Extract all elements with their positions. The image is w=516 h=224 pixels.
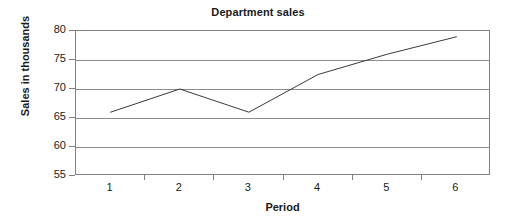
y-axis-tick-label: 55 bbox=[26, 169, 66, 180]
x-axis-tick-label: 4 bbox=[297, 182, 337, 193]
x-axis-tick-mark bbox=[421, 175, 422, 180]
x-axis-title: Period bbox=[75, 201, 490, 213]
x-axis-tick-mark bbox=[213, 175, 214, 180]
x-axis-tick-label: 3 bbox=[228, 182, 268, 193]
y-axis-tick-label: 65 bbox=[26, 111, 66, 122]
x-axis-tick-label: 2 bbox=[159, 182, 199, 193]
series-line-path bbox=[111, 37, 457, 112]
plot-area bbox=[75, 30, 490, 175]
x-axis-tick-label: 6 bbox=[435, 182, 475, 193]
y-axis-tick-label: 60 bbox=[26, 140, 66, 151]
y-axis-tick-label: 70 bbox=[26, 82, 66, 93]
series-line-chart bbox=[76, 31, 491, 176]
x-axis-tick-mark bbox=[144, 175, 145, 180]
chart-title: Department sales bbox=[0, 6, 516, 18]
x-axis-tick-mark bbox=[352, 175, 353, 180]
x-axis-tick-label: 5 bbox=[366, 182, 406, 193]
y-axis-tick-mark bbox=[69, 175, 75, 176]
y-axis-tick-label: 80 bbox=[26, 24, 66, 35]
y-axis-tick-label: 75 bbox=[26, 53, 66, 64]
x-axis-tick-mark bbox=[283, 175, 284, 180]
chart-screenshot: Department sales Sales in thousands 8075… bbox=[0, 0, 516, 224]
x-axis-tick-label: 1 bbox=[90, 182, 130, 193]
